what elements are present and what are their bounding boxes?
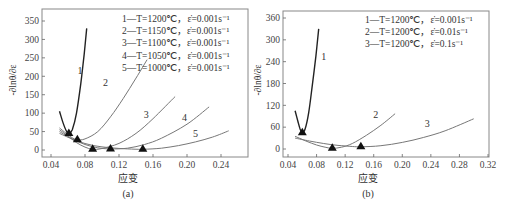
- x-tick-label: 0.12: [111, 160, 128, 170]
- series-number-label: 3: [425, 118, 430, 129]
- y-axis-label: -∂lnθ/∂ε: [253, 64, 263, 95]
- triangle-marker-icon: [356, 142, 365, 150]
- x-axis-label: 应变: [358, 172, 378, 184]
- x-tick-label: 0.04: [280, 160, 297, 170]
- legend-entry: 2—T=1150℃，ε̇=0.001s⁻¹: [122, 26, 229, 36]
- legend-entry: 1—T=1200℃，ε̇=0.001s⁻¹: [365, 15, 473, 25]
- y-tick-label: 250: [25, 53, 40, 63]
- panel-caption: (a): [122, 188, 133, 200]
- x-tick-label: 0.20: [179, 160, 196, 170]
- legend-entry: 3—T=1100℃，ε̇=0.001s⁻¹: [122, 38, 229, 48]
- legend-entry: 2—T=1200℃，ε̇=0.01s⁻¹: [365, 27, 468, 37]
- series-number-label: 3: [144, 109, 149, 120]
- panel-a: 0501001502002503003500.040.080.120.160.2…: [8, 9, 248, 200]
- y-axis-label: -∂lnθ/∂ε: [8, 64, 18, 95]
- y-tick-label: 300: [25, 35, 40, 45]
- y-tick-label: 200: [25, 72, 40, 82]
- chart-figure: 0501001502002503003500.040.080.120.160.2…: [0, 0, 515, 205]
- x-tick-label: 0.20: [394, 160, 411, 170]
- series-number-label: 4: [182, 112, 187, 123]
- series-line-2: [295, 114, 395, 149]
- y-tick-label: 240: [266, 57, 281, 67]
- x-tick-label: 0.24: [423, 160, 440, 170]
- x-tick-label: 0.04: [43, 160, 60, 170]
- y-tick-label: 0: [275, 144, 280, 154]
- y-tick-label: 60: [271, 122, 281, 132]
- x-tick-label: 0.32: [480, 160, 497, 170]
- series-number-label: 2: [103, 77, 108, 88]
- y-tick-label: 50: [30, 127, 40, 137]
- legend-entry: 1—T=1200℃，ε̇=0.001s⁻¹: [122, 14, 230, 24]
- x-axis-label: 应变: [118, 172, 138, 184]
- x-tick-label: 0.24: [213, 160, 230, 170]
- y-tick-label: 360: [266, 13, 281, 23]
- y-tick-label: 150: [25, 90, 40, 100]
- panel-caption: (b): [362, 188, 374, 200]
- y-tick-label: 350: [25, 16, 40, 26]
- x-tick-label: 0.12: [337, 160, 354, 170]
- x-tick-label: 0.28: [451, 160, 468, 170]
- x-tick-label: 0.16: [145, 160, 162, 170]
- legend-entry: 4—T=1050℃，ε̇=0.001s⁻¹: [122, 51, 230, 61]
- series-number-label: 1: [321, 51, 326, 62]
- y-tick-label: 180: [266, 79, 281, 89]
- series-line-1: [60, 28, 87, 133]
- series-number-label: 5: [193, 128, 198, 139]
- y-tick-label: 300: [266, 35, 281, 45]
- y-tick-label: 100: [25, 108, 40, 118]
- x-tick-label: 0.16: [365, 160, 382, 170]
- y-tick-label: 0: [34, 145, 39, 155]
- x-tick-label: 0.08: [308, 160, 325, 170]
- x-tick-label: 0.08: [77, 160, 94, 170]
- panel-b: 0601201802403003600.040.080.120.160.200.…: [253, 11, 497, 200]
- series-number-label: 1: [77, 65, 82, 76]
- caption-a: (a): [0, 0, 1, 1]
- legend-entry: 3—T=1200℃，ε̇=0.1s⁻¹: [365, 39, 463, 49]
- series-number-label: 2: [373, 109, 378, 120]
- legend-entry: 5—T=1000℃，ε̇=0.001s⁻¹: [122, 63, 230, 73]
- y-tick-label: 120: [266, 101, 281, 111]
- series-line-1: [295, 29, 319, 133]
